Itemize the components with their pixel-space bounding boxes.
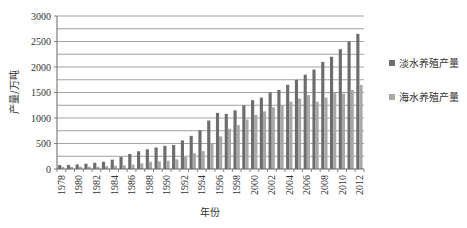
y-tick-label: 3000	[31, 11, 51, 22]
bar	[351, 90, 354, 169]
x-tick-label: 1990	[161, 175, 172, 195]
y-tick-label: 1500	[31, 87, 51, 98]
x-tick-label: 1998	[231, 175, 242, 195]
bar	[137, 151, 140, 169]
bar	[356, 34, 359, 169]
x-tick-label: 1978	[56, 175, 67, 195]
bar	[339, 49, 342, 169]
x-tick-label: 1984	[109, 175, 120, 195]
x-tick-label: 1996	[214, 175, 225, 195]
x-axis-tick-labels: 1978198019821984198619881990199219941996…	[56, 175, 365, 195]
bar	[184, 157, 187, 169]
bar	[93, 163, 96, 169]
bar	[330, 57, 333, 169]
bar	[123, 165, 126, 169]
x-tick-label: 1980	[73, 175, 84, 195]
bar	[193, 153, 196, 169]
bar	[175, 159, 178, 169]
y-axis-tick-labels: 050010001500200025003000	[31, 11, 51, 175]
bar	[263, 111, 266, 169]
bar	[324, 98, 327, 169]
bar	[342, 94, 345, 169]
bar	[242, 105, 245, 169]
y-tick-label: 0	[46, 164, 51, 175]
bar	[298, 99, 301, 169]
x-tick-label: 2012	[354, 175, 365, 195]
bar	[210, 144, 213, 170]
bar	[58, 165, 61, 169]
bar	[280, 105, 283, 169]
bar	[245, 120, 248, 169]
bar	[251, 100, 254, 169]
bar	[67, 165, 70, 169]
x-tick-label: 1986	[126, 175, 137, 195]
bar	[155, 147, 158, 169]
bar	[163, 146, 166, 169]
bar	[321, 62, 324, 169]
bar	[84, 164, 87, 169]
bar	[348, 42, 351, 170]
x-tick-label: 1988	[144, 175, 155, 195]
bar	[216, 113, 219, 169]
bar	[316, 102, 319, 169]
bar	[307, 95, 310, 169]
bar	[131, 165, 134, 169]
bar	[228, 129, 231, 169]
bar	[166, 161, 169, 169]
bar	[237, 125, 240, 169]
bar	[225, 114, 228, 169]
x-tick-label: 2002	[266, 175, 277, 195]
x-tick-label: 1982	[91, 175, 102, 195]
bar	[146, 149, 149, 169]
legend: 淡水养殖产量海水养殖产量	[389, 57, 459, 103]
bar	[277, 90, 280, 169]
bar	[254, 115, 257, 169]
x-tick-label: 2010	[337, 175, 348, 195]
bar	[128, 154, 131, 169]
bar	[172, 145, 175, 169]
bar	[102, 162, 105, 169]
bar	[260, 98, 263, 169]
bar	[333, 93, 336, 170]
x-tick-label: 1994	[196, 175, 207, 195]
y-axis-title: 产量/万吨	[8, 70, 20, 113]
bar	[198, 130, 201, 169]
bar	[149, 162, 152, 169]
aquaculture-bar-chart: 050010001500200025003000 197819801982198…	[0, 0, 467, 228]
bar	[286, 85, 289, 169]
bar	[295, 80, 298, 169]
bar	[272, 107, 275, 169]
bar	[359, 85, 362, 169]
bar	[219, 136, 222, 169]
legend-label: 海水养殖产量	[399, 91, 459, 103]
legend-swatch	[389, 94, 395, 100]
x-tick-label: 2004	[284, 175, 295, 195]
bar	[76, 164, 79, 169]
bar	[119, 157, 122, 169]
bar	[190, 136, 193, 169]
bar	[289, 102, 292, 169]
bar	[140, 163, 143, 169]
bar	[207, 121, 210, 169]
y-tick-label: 2500	[31, 36, 51, 47]
x-axis-title: 年份	[200, 206, 220, 218]
legend-swatch	[389, 60, 395, 66]
bar	[233, 110, 236, 169]
bar	[202, 151, 205, 169]
bar	[158, 161, 161, 169]
x-tick-label: 1992	[179, 175, 190, 195]
bar	[181, 140, 184, 169]
x-tick-label: 2008	[319, 175, 330, 195]
legend-label: 淡水养殖产量	[399, 57, 459, 69]
y-tick-label: 2000	[31, 62, 51, 73]
y-tick-label: 500	[36, 138, 51, 149]
x-tick-label: 2006	[301, 175, 312, 195]
y-tick-label: 1000	[31, 113, 51, 124]
bar	[304, 75, 307, 169]
x-tick-label: 2000	[249, 175, 260, 195]
bar	[269, 93, 272, 170]
bar	[111, 160, 114, 169]
bar	[312, 70, 315, 169]
